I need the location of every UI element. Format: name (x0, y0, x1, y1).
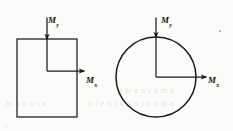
rect-mx-label-base: M (86, 75, 94, 85)
figure-root: a m a n i u m n m u n u t a o t e n i n … (0, 0, 233, 131)
circle-my-label-subscript: y (169, 22, 172, 28)
figure-canvas (0, 0, 233, 131)
rect-mx-label-subscript: x (94, 82, 97, 88)
rect-my-label-subscript: y (56, 22, 59, 28)
rectangular-section-panel (17, 18, 86, 118)
circle-mx-label-subscript: x (216, 82, 219, 88)
circle-mx-label: Mx (208, 76, 219, 87)
circle-mx-label-base: M (208, 75, 216, 85)
circle-my-label: My (161, 16, 172, 27)
rect-my-label-base: M (48, 15, 56, 25)
circular-section-panel (116, 18, 208, 118)
circle-my-label-base: M (161, 15, 169, 25)
rect-mx-label: Mx (86, 76, 97, 87)
rect-my-label: My (48, 16, 59, 27)
